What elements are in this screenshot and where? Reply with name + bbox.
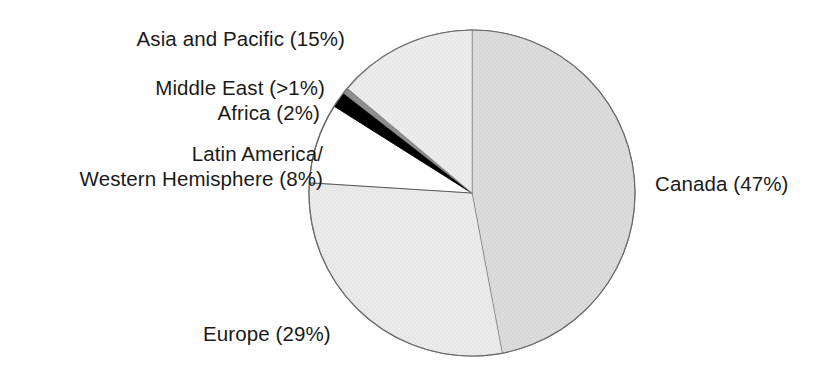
pie-slices	[309, 30, 635, 356]
pie-slice-europe-texture	[309, 183, 502, 356]
pie-label-latin-america-line2: Western Hemisphere (8%)	[80, 166, 323, 191]
pie-label-canada: Canada (47%)	[655, 171, 788, 196]
pie-label-asia-and-pacific: Asia and Pacific (15%)	[137, 26, 345, 51]
pie-slice-canada-texture	[472, 30, 635, 353]
pie-label-africa: Africa (2%)	[218, 100, 320, 125]
pie-label-latin-america-line1: Latin America/	[192, 141, 323, 166]
pie-label-europe: Europe (29%)	[203, 321, 331, 346]
pie-chart-figure: Asia and Pacific (15%) Middle East (>1%)…	[0, 0, 821, 387]
pie-label-middle-east: Middle East (>1%)	[155, 75, 325, 100]
